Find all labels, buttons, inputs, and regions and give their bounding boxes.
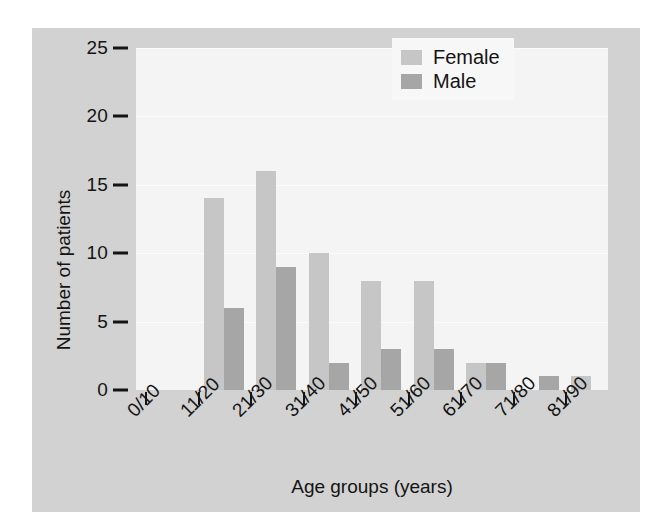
y-tick-label: 5 <box>97 311 108 333</box>
y-tick-label: 10 <box>86 242 108 264</box>
bar-male-71-80 <box>539 376 559 390</box>
y-tick-label: 20 <box>86 105 108 127</box>
y-tick-label: 25 <box>86 37 108 59</box>
bar-male-61-70 <box>486 363 506 390</box>
legend-entry-male: Male <box>401 69 500 93</box>
legend-entry-female: Female <box>401 45 500 69</box>
bars-layer <box>136 48 608 390</box>
legend-label-male: Male <box>433 70 476 93</box>
bar-male-21-30 <box>276 267 296 390</box>
y-tick-mark <box>113 252 128 255</box>
x-axis-tick-labels: 0/1011/2021/3031/4041/5051/6061/7071/808… <box>136 406 608 476</box>
bar-female-11-20 <box>204 198 224 390</box>
plot-area <box>136 48 608 390</box>
y-axis: 0510152025 <box>32 28 136 512</box>
y-tick-mark <box>113 47 128 50</box>
x-axis-title: Age groups (years) <box>136 476 608 498</box>
y-tick-mark <box>113 115 128 118</box>
legend-label-female: Female <box>433 46 500 69</box>
bar-female-31-40 <box>309 253 329 390</box>
bar-male-11-20 <box>224 308 244 390</box>
y-tick-label: 0 <box>97 379 108 401</box>
chart-legend: Female Male <box>392 38 514 100</box>
bar-male-31-40 <box>329 363 349 390</box>
bar-male-41-50 <box>381 349 401 390</box>
male-swatch-icon <box>401 74 422 89</box>
bar-female-21-30 <box>256 171 276 390</box>
female-swatch-icon <box>401 50 422 65</box>
y-tick-mark <box>113 389 128 392</box>
bar-male-51-60 <box>434 349 454 390</box>
figure-canvas: Number of patients 0510152025 0/1011/202… <box>32 28 640 512</box>
y-tick-label: 15 <box>86 174 108 196</box>
y-tick-mark <box>113 183 128 186</box>
y-tick-mark <box>113 320 128 323</box>
